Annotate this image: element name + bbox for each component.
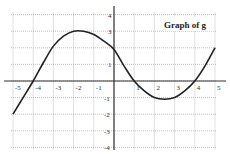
svg-text:3: 3	[108, 28, 112, 36]
tick-labels: -5-4-3-2-112345431-1-2-3-4	[15, 12, 221, 153]
graph-of-g-chart: -5-4-3-2-112345431-1-2-3-4 Graph of g	[0, 0, 230, 154]
svg-text:-4: -4	[35, 84, 41, 92]
svg-text:-1: -1	[104, 95, 110, 103]
svg-text:3: 3	[177, 84, 181, 92]
svg-text:-2: -2	[104, 111, 110, 119]
svg-text:-1: -1	[96, 84, 102, 92]
svg-text:1: 1	[108, 61, 112, 69]
svg-text:2: 2	[156, 84, 160, 92]
svg-text:4: 4	[197, 84, 201, 92]
svg-text:4: 4	[108, 12, 112, 20]
svg-text:-5: -5	[15, 84, 21, 92]
chart-title: Graph of g	[164, 20, 207, 30]
svg-text:-3: -3	[55, 84, 61, 92]
svg-text:-2: -2	[76, 84, 82, 92]
svg-text:5: 5	[217, 84, 221, 92]
svg-text:-4: -4	[104, 144, 110, 152]
svg-text:-3: -3	[104, 128, 110, 136]
